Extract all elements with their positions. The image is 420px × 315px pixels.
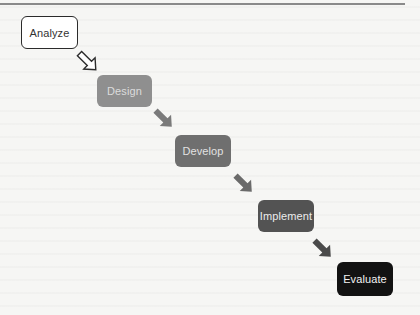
step-label: Develop [182,145,223,157]
step-label: Evaluate [343,273,387,285]
arrow-design-to-develop-icon [151,106,177,132]
step-label: Implement [260,210,312,222]
arrow-analyze-to-design-icon [75,49,101,75]
step-design: Design [97,75,152,107]
step-analyze: Analyze [21,16,78,49]
step-develop: Develop [175,135,231,167]
arrow-implement-to-evaluate-icon [310,236,336,262]
step-evaluate: Evaluate [337,262,393,296]
step-label: Analyze [30,27,70,39]
step-implement: Implement [258,200,314,232]
top-divider [0,3,405,5]
arrow-develop-to-implement-icon [231,171,257,197]
step-label: Design [107,85,142,97]
